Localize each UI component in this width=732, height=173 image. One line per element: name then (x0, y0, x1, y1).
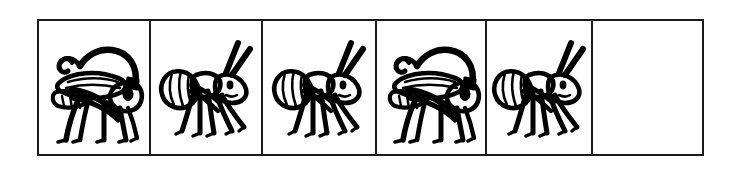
sequence-cell-2[interactable] (151, 21, 262, 154)
grasshopper-icon (42, 30, 146, 146)
ant-icon (269, 33, 369, 143)
ant-icon (156, 33, 256, 143)
sequence-cell-1[interactable] (39, 21, 151, 154)
sequence-cell-3[interactable] (263, 21, 377, 154)
sequence-cell-4[interactable] (377, 21, 487, 154)
ant-icon (489, 33, 589, 143)
grasshopper-icon (379, 30, 483, 146)
sequence-cell-6[interactable] (593, 21, 702, 154)
pattern-sequence-table (37, 19, 704, 156)
empty-answer-slot[interactable] (593, 21, 702, 154)
sequence-cell-5[interactable] (487, 21, 592, 154)
